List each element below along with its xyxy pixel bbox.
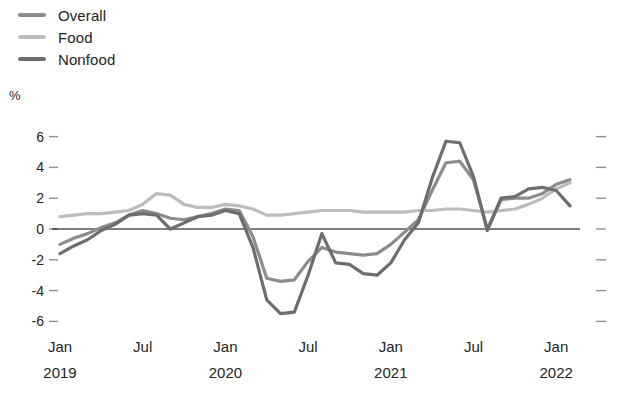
y-axis-tick-label: 4	[36, 159, 44, 175]
y-axis-tick-label: -6	[32, 313, 45, 329]
x-axis-tick-month: Jan	[379, 338, 403, 355]
x-axis-tick-labels: Jan2019JulJan2020JulJan2021JulJan2022	[43, 338, 573, 381]
y-axis-tick-label: -4	[32, 283, 45, 299]
data-series-group	[60, 141, 570, 313]
y-axis-tick-label: -2	[32, 252, 45, 268]
plot-area: 6420-2-4-6 Jan2019JulJan2020JulJan2021Ju…	[0, 0, 618, 402]
y-axis-tick-labels: 6420-2-4-6	[32, 129, 45, 330]
x-axis-tick-year: 2022	[540, 364, 573, 381]
x-axis-tick-year: 2021	[374, 364, 407, 381]
line-chart: Overall Food Nonfood % 6420-2-4-6 Jan201…	[0, 0, 618, 402]
series-line-nonfood	[60, 141, 570, 313]
y-axis-tick-label: 6	[36, 129, 44, 145]
x-axis-tick-year: 2020	[209, 364, 242, 381]
x-axis-tick-month: Jul	[133, 338, 152, 355]
y-axis-tick-label: 2	[36, 190, 44, 206]
x-axis-tick-month: Jan	[544, 338, 568, 355]
x-axis-tick-month: Jul	[464, 338, 483, 355]
x-axis-tick-month: Jan	[213, 338, 237, 355]
x-axis-tick-month: Jul	[299, 338, 318, 355]
series-line-overall	[60, 161, 570, 281]
x-axis-tick-month: Jan	[48, 338, 72, 355]
x-axis-tick-year: 2019	[43, 364, 76, 381]
y-axis-tick-label: 0	[36, 221, 44, 237]
y-axis-ticks-right	[596, 137, 606, 322]
